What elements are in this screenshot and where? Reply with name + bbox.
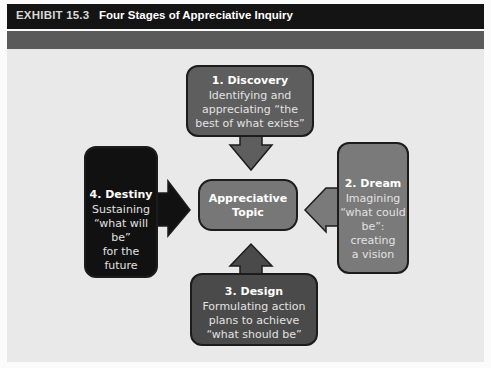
stage-dream: 2. Dream Imagining “what could be”: crea… [337,142,409,274]
destiny-arrow-icon [155,181,190,236]
stage-title: 2. Dream [339,177,407,191]
stage-title: 3. Design [192,285,316,299]
stage-desc-line: Imagining [339,192,407,206]
stage-desc-line: “what could [339,206,407,220]
stage-title: 4. Destiny [86,188,156,202]
stage-desc-line: Identifying and [188,89,312,103]
stage-destiny: 4. Destiny Sustaining “what will be” for… [84,146,158,278]
stage-desc-line: appreciating “the [188,103,312,117]
stage-desc-line: best of what exists” [188,117,312,131]
stage-desc-line: for the future [86,245,156,273]
stage-desc-line: Sustaining [86,203,156,217]
stage-desc-line: plans to achieve [192,314,316,328]
stage-desc-line: be”: creating [339,220,407,248]
stage-title: 1. Discovery [188,74,312,88]
center-appreciative-topic: Appreciative Topic [198,179,298,231]
dream-arrow-icon [305,188,340,232]
center-label-line: Appreciative [200,192,296,206]
stage-design: 3. Design Formulating action plans to ac… [190,273,318,346]
stage-desc-line: “what should be” [192,328,316,342]
stage-desc-line: “what will be” [86,217,156,245]
stage-desc-line: Formulating action [192,300,316,314]
stage-discovery: 1. Discovery Identifying and appreciatin… [186,65,314,137]
stage-desc-line: a vision [339,248,407,262]
center-label-line: Topic [200,206,296,220]
